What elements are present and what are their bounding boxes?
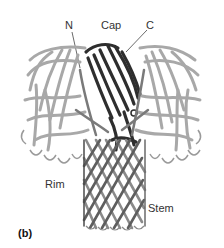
right-cap-domain	[136, 47, 200, 151]
label-rim: Rim	[45, 179, 65, 190]
stem-barrel	[84, 140, 145, 228]
panel-label: (b)	[18, 228, 32, 239]
label-n-terminus: N	[65, 20, 73, 31]
left-cap-domain	[25, 47, 88, 150]
protein-structure-figure: N Cap C Rim Stem (b)	[0, 0, 224, 248]
label-cap: Cap	[101, 20, 121, 31]
label-c-terminus: C	[146, 20, 154, 31]
ribbon-structure-illustration	[0, 0, 224, 248]
label-stem: Stem	[148, 203, 174, 214]
